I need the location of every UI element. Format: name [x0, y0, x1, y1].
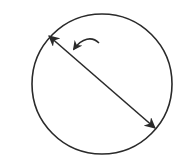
diagram-canvas [0, 0, 189, 162]
circle-outline [32, 14, 172, 154]
circle-diameter-diagram [0, 0, 189, 162]
curved-pointer-arrow-icon [74, 39, 99, 49]
diameter-double-arrow [49, 36, 155, 128]
